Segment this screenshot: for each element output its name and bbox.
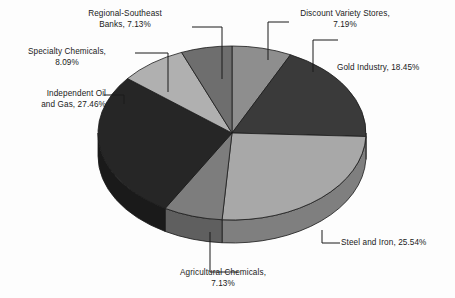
slice-label-agricultural-chemicals: Agricultural Chemicals, 7.13% [143,267,303,289]
slice-label-discount-variety-stores: Discount Variety Stores, 7.19% [280,8,410,30]
pie-top-faces [98,46,366,220]
pie-chart: Discount Variety Stores, 7.19% Gold Indu… [0,0,455,298]
pie-slice-steel-and-iron[interactable] [222,133,366,220]
slice-label-gold-industry: Gold Industry, 18.45% [337,62,455,73]
slice-label-regional-southeast-banks: Regional-Southeast Banks, 7.13% [58,8,192,30]
leader-line-steel [322,230,340,243]
pie-chart-canvas [0,0,455,298]
slice-label-steel-and-iron: Steel and Iron, 25.54% [341,237,455,248]
slice-label-independent-oil-and-gas: Independent Oil and Gas, 27.46% [2,88,106,110]
slice-label-specialty-chemicals: Specialty Chemicals, 8.09% [2,46,132,68]
